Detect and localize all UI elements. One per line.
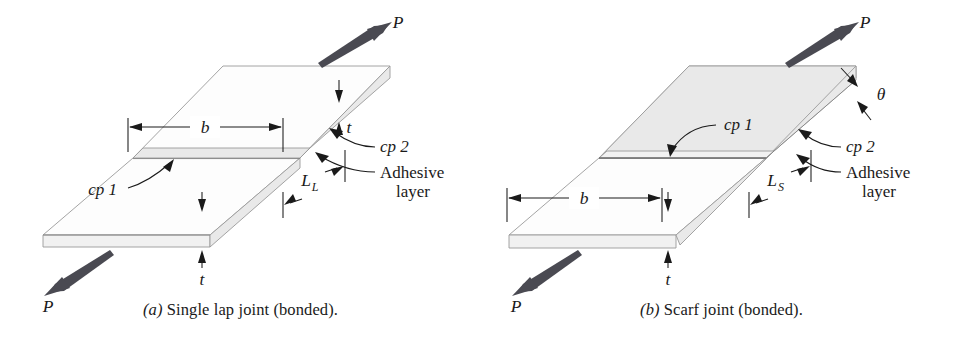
force-arrow-bottom — [512, 250, 582, 296]
force-arrow-top — [318, 22, 392, 68]
panel-scarf-joint: P P b t — [481, 0, 962, 348]
adhesive-label-line2: layer — [396, 182, 430, 201]
scarf-length-label: L S — [766, 170, 784, 194]
scarf-label-L: L — [766, 170, 777, 190]
thickness-bottom-label: t — [200, 269, 206, 289]
dimension-b-label: b — [201, 117, 210, 137]
adhesive-leader — [320, 156, 375, 172]
angle-theta-label: θ — [877, 84, 886, 104]
overlap-dimension-label: L L — [300, 170, 319, 194]
caption-a-label: (a) — [143, 300, 163, 319]
dimension-b-label: b — [580, 188, 589, 208]
force-label-top: P — [392, 12, 404, 32]
panel-single-lap-joint: P P b t — [0, 0, 481, 348]
overlap-label-L: L — [300, 170, 311, 190]
lower-plate-front-edge — [509, 235, 676, 248]
thickness-top-label: t — [347, 117, 353, 137]
cp1-label: cp 1 — [88, 180, 117, 199]
caption-a: (a) Single lap joint (bonded). — [0, 300, 481, 320]
force-arrow-top — [785, 22, 859, 68]
caption-b-label: (b) — [640, 300, 660, 319]
cp2-label: cp 2 — [380, 137, 409, 156]
cp1-label: cp 1 — [724, 115, 753, 134]
force-label-top: P — [859, 12, 871, 32]
caption-a-text: Single lap joint (bonded). — [167, 300, 338, 319]
caption-b-text: Scarf joint (bonded). — [664, 300, 803, 319]
force-arrow-bottom — [44, 250, 114, 296]
figure-bonded-joints: P P b t — [0, 0, 962, 348]
scarf-wedge — [599, 151, 774, 158]
adhesive-label-line2: layer — [862, 182, 896, 201]
caption-b: (b) Scarf joint (bonded). — [481, 300, 962, 320]
adhesive-label-line1: Adhesive — [846, 163, 910, 182]
scarf-label-sub: S — [778, 180, 784, 194]
adhesive-leader-head — [315, 152, 329, 163]
thickness-label: t — [666, 269, 672, 289]
cp2-label: cp 2 — [846, 137, 875, 156]
adhesive-label-line1: Adhesive — [380, 163, 444, 182]
lower-plate-front-edge — [43, 235, 210, 247]
overlap-label-sub: L — [311, 180, 319, 194]
